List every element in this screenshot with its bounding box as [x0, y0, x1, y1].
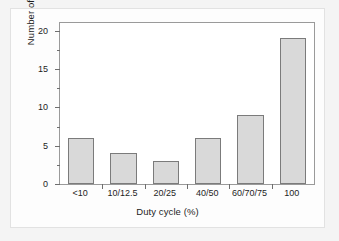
- y-axis-minor-tick: [57, 50, 60, 51]
- x-axis-tick: [102, 184, 103, 189]
- x-axis-tick-label: 60/70/75: [232, 188, 267, 198]
- bar: [68, 138, 94, 184]
- x-axis-title: Duty cycle (%): [11, 206, 324, 217]
- y-axis-tick: 10: [55, 107, 60, 108]
- y-axis-minor-tick: [57, 127, 60, 128]
- bar: [195, 138, 221, 184]
- x-axis-tick-label: <10: [73, 188, 88, 198]
- y-axis-minor-tick: [57, 88, 60, 89]
- x-axis-tick-label: 20/25: [154, 188, 177, 198]
- y-axis-tick-label: 5: [43, 141, 48, 151]
- x-axis-tick-label: 40/50: [196, 188, 219, 198]
- x-axis-tick-label: 10/12.5: [107, 188, 137, 198]
- y-axis-tick: 20: [55, 31, 60, 32]
- y-axis-tick-label: 20: [38, 26, 48, 36]
- x-axis-tick-label: 100: [284, 188, 299, 198]
- y-axis-title: Number of reports: [25, 0, 37, 61]
- y-axis-tick-label: 10: [38, 102, 48, 112]
- y-axis-minor-tick: [57, 165, 60, 166]
- x-axis-tick: [145, 184, 146, 189]
- x-axis-tick: [272, 184, 273, 189]
- bar: [110, 153, 136, 184]
- figure-card: Number of reports 05101520 <1010/12.520/…: [10, 8, 325, 228]
- y-axis-tick: 5: [55, 146, 60, 147]
- x-axis-tick: [229, 184, 230, 189]
- y-axis-tick-label: 0: [43, 179, 48, 189]
- bar-chart: Number of reports 05101520 <1010/12.520/…: [11, 9, 324, 227]
- plot-area: 05101520: [59, 22, 315, 185]
- y-axis-tick-label: 15: [38, 64, 48, 74]
- bar: [237, 115, 263, 184]
- y-axis-tick: 15: [55, 69, 60, 70]
- plot-inner: 05101520: [60, 23, 314, 184]
- y-axis-tick: 0: [55, 184, 60, 185]
- bar: [280, 38, 306, 184]
- bar: [153, 161, 179, 184]
- x-axis-tick: [187, 184, 188, 189]
